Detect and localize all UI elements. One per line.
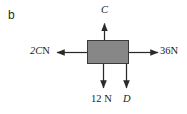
force-diagram-figure: b C 2CN 36N 12 N D: [0, 0, 187, 114]
force-label-36n-number: 36: [160, 45, 171, 56]
force-label-2cn-unit: N: [42, 45, 50, 56]
force-label-c: C: [101, 5, 108, 16]
force-label-2cn-magnitude: 2C: [30, 45, 42, 56]
force-label-36n: 36N: [160, 46, 178, 57]
force-label-d: D: [123, 94, 131, 105]
force-label-12n: 12 N: [91, 94, 112, 105]
force-label-36n-unit: N: [171, 45, 179, 56]
force-label-2cn: 2CN: [30, 46, 50, 57]
